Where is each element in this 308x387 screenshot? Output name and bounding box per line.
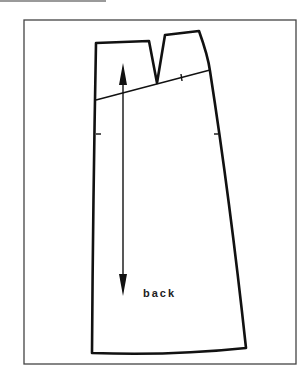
grainline-arrow-down-icon xyxy=(119,274,127,296)
hip-line xyxy=(96,70,210,100)
piece-label: back xyxy=(143,287,176,299)
grainline-arrow-up-icon xyxy=(119,63,127,85)
skirt-back-outline xyxy=(92,31,246,354)
skirt-pattern-diagram xyxy=(0,0,308,387)
hip-notch xyxy=(181,74,182,81)
